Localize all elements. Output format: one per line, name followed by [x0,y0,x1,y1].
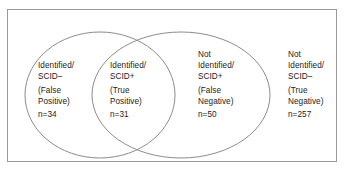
region-classification-line-1: (False [38,85,74,96]
region-status-line-0: Not [288,49,324,60]
region-classification-line-2: Negative) [288,96,324,107]
region-status-line-2: SCID+ [110,71,146,82]
region-count: n=257 [288,109,324,120]
region-label-false-negative: Not Identified/ SCID+ (False Negative) n… [198,49,234,121]
region-label-false-positive: Identified/ SCID– (False Positive) n=34 [38,60,74,120]
region-count: n=50 [198,109,234,120]
region-status-line-2: SCID– [288,71,324,82]
region-classification-line-2: Negative) [198,96,234,107]
region-label-true-negative: Not Identified/ SCID– (True Negative) n=… [288,49,324,121]
region-status-line-2: SCID– [38,71,74,82]
region-classification-line-1: (True [288,85,324,96]
region-status-line-1: Identified/ [38,60,74,71]
region-status-line-1: Identified/ [288,60,324,71]
region-label-true-positive: Identified/ SCID+ (True Positive) n=31 [110,60,146,120]
region-status-line-1: Identified/ [110,60,146,71]
region-count: n=34 [38,109,74,120]
venn-diagram-figure: Identified/ SCID– (False Positive) n=34 … [0,0,352,176]
region-classification-line-1: (True [110,85,146,96]
region-status-line-1: Identified/ [198,60,234,71]
region-classification-line-2: Positive) [38,96,74,107]
region-classification-line-1: (False [198,85,234,96]
region-count: n=31 [110,109,146,120]
region-classification-line-2: Positive) [110,96,146,107]
region-status-line-0: Not [198,49,234,60]
region-status-line-2: SCID+ [198,71,234,82]
